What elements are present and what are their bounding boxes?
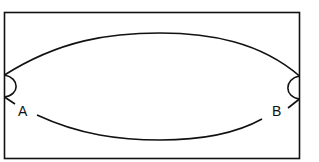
lower-arc xyxy=(37,115,262,140)
left-loop xyxy=(5,75,17,97)
diagram-drawing xyxy=(0,0,319,162)
upper-arc xyxy=(5,33,300,76)
right-loop xyxy=(288,76,300,99)
label-b: B xyxy=(272,104,281,118)
label-a: A xyxy=(18,104,27,118)
diagram: A B xyxy=(0,0,319,162)
outer-box xyxy=(5,13,300,159)
right-tick xyxy=(288,99,300,108)
left-tick xyxy=(5,97,16,104)
